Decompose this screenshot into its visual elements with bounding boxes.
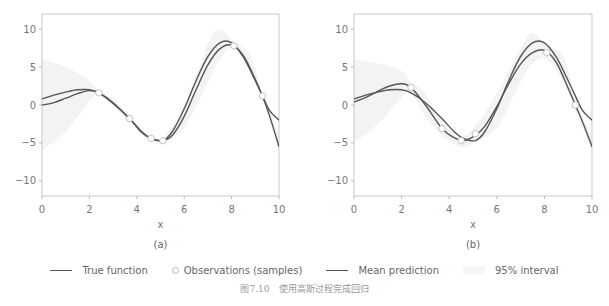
x-tick-label: 8 (228, 204, 234, 215)
observation-marker (126, 115, 132, 121)
y-tick-label: 5 (30, 62, 36, 73)
chart-panel-a: −10−505100246810x(a) (15, 14, 285, 250)
observation-marker (439, 125, 445, 131)
legend-item-interval: 95% interval (463, 265, 559, 276)
x-tick-label: 0 (39, 204, 45, 215)
y-tick-label: −10 (15, 175, 36, 186)
observation-marker (472, 131, 478, 137)
x-tick-label: 2 (398, 204, 404, 215)
y-tick-label: 5 (342, 62, 348, 73)
legend-item-mean-prediction: Mean prediction (326, 265, 439, 276)
figure-caption: 图7.10 使用高斯过程完成回归 (0, 282, 609, 295)
x-axis-label: x (158, 219, 164, 230)
y-tick-label: −10 (327, 175, 348, 186)
legend-label: 95% interval (495, 265, 559, 276)
observation-marker (544, 49, 550, 55)
observation-marker (458, 137, 464, 143)
legend-label: Observations (samples) (184, 265, 303, 276)
observation-marker (148, 135, 154, 141)
panel-label: (b) (466, 239, 480, 250)
observation-marker (259, 93, 265, 99)
x-tick-label: 10 (586, 204, 599, 215)
legend-item-true-function: True function (50, 265, 147, 276)
observation-marker (408, 84, 414, 90)
y-tick-label: −5 (21, 137, 36, 148)
y-tick-label: 0 (30, 100, 36, 111)
band-swatch-icon (463, 266, 485, 274)
x-tick-label: 6 (494, 204, 500, 215)
y-tick-label: −5 (333, 137, 348, 148)
x-tick-label: 10 (273, 204, 286, 215)
y-tick-label: 0 (342, 100, 348, 111)
x-tick-label: 2 (86, 204, 92, 215)
observation-marker (231, 43, 237, 49)
figure-canvas: −10−505100246810x(a)−10−505100246810x(b) (0, 0, 609, 306)
observation-marker (160, 137, 166, 143)
circle-marker-icon (172, 267, 179, 274)
legend-item-observations: Observations (samples) (172, 265, 303, 276)
x-tick-label: 4 (446, 204, 452, 215)
x-tick-label: 4 (134, 204, 140, 215)
observation-marker (96, 90, 102, 96)
chart-panel-b: −10−505100246810x(b) (327, 14, 598, 250)
observation-marker (572, 102, 578, 108)
y-tick-label: 10 (23, 24, 36, 35)
x-axis-label: x (470, 219, 476, 230)
x-tick-label: 8 (541, 204, 547, 215)
x-tick-label: 0 (351, 204, 357, 215)
line-swatch-icon (50, 270, 72, 271)
legend: True function Observations (samples) Mea… (0, 262, 609, 278)
legend-label: True function (82, 265, 147, 276)
panel-label: (a) (154, 239, 168, 250)
y-tick-label: 10 (335, 24, 348, 35)
line-swatch-icon (326, 270, 348, 271)
legend-label: Mean prediction (358, 265, 439, 276)
x-tick-label: 6 (181, 204, 187, 215)
